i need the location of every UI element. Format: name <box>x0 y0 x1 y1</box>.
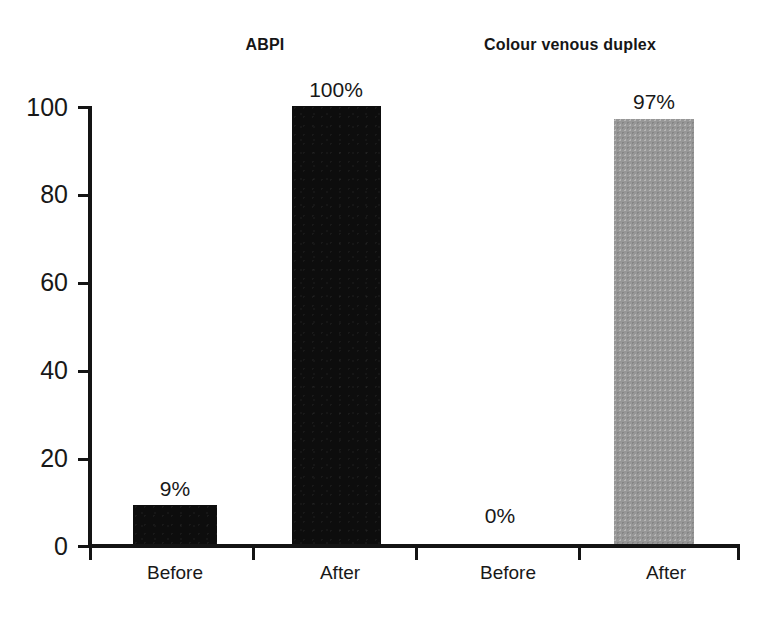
y-tick-label-60: 60 <box>40 270 78 295</box>
group-header-abpi: ABPI <box>245 36 284 54</box>
bar-value-abpi-before: 9% <box>160 477 190 501</box>
bar-value-abpi-after: 100% <box>309 78 363 102</box>
chart-figure: ABPI Colour venous duplex 100 80 60 40 2… <box>0 0 777 626</box>
x-category-label-abpi-after: After <box>320 562 360 584</box>
y-tick-label-80: 80 <box>40 182 78 207</box>
x-tick-mark-3 <box>578 546 581 560</box>
plot-area: 9% 100% 0% 97% <box>88 106 740 544</box>
bar-abpi-after <box>292 106 381 544</box>
bar-value-duplex-after: 97% <box>633 90 675 114</box>
y-tick-label-0: 0 <box>54 534 78 559</box>
bar-value-duplex-before: 0% <box>485 504 515 528</box>
x-axis-line <box>88 544 740 548</box>
x-tick-mark-2 <box>415 546 418 560</box>
y-tick-label-40: 40 <box>40 358 78 383</box>
x-category-label-duplex-before: Before <box>480 562 536 584</box>
bar-duplex-after <box>614 119 694 544</box>
x-category-label-abpi-before: Before <box>147 562 203 584</box>
bar-abpi-before <box>133 505 217 544</box>
y-tick-label-100: 100 <box>26 95 78 120</box>
x-tick-mark-4 <box>737 546 740 560</box>
x-category-label-duplex-after: After <box>646 562 686 584</box>
group-header-colour-venous-duplex: Colour venous duplex <box>484 36 656 54</box>
x-tick-mark-1 <box>252 546 255 560</box>
y-tick-label-20: 20 <box>40 446 78 471</box>
x-tick-mark-0 <box>89 546 92 560</box>
